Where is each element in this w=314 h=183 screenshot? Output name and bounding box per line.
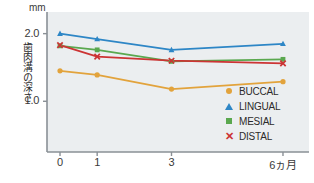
circle-marker-icon	[222, 88, 236, 94]
marker-shape	[225, 103, 233, 110]
chart-container: mm 歯肉溝の深さ 2.01.0 0136ヵ月 BUCCALLINGUALMES…	[0, 0, 314, 183]
triangle-marker-icon	[222, 103, 236, 110]
data-point-buccal	[95, 72, 100, 77]
legend-item-buccal[interactable]: BUCCAL	[222, 84, 310, 98]
marker-shape	[226, 118, 232, 124]
data-point-mesial	[95, 47, 100, 52]
data-point-buccal	[169, 87, 174, 92]
legend-label: MESIAL	[239, 116, 274, 127]
x-marker-icon: ✕	[222, 132, 236, 141]
legend-label: LINGUAL	[239, 101, 280, 112]
marker-shape	[226, 88, 232, 94]
chart-legend: BUCCALLINGUALMESIAL✕DISTAL	[222, 84, 310, 144]
legend-label: BUCCAL	[239, 86, 278, 97]
data-point-buccal	[57, 68, 62, 73]
legend-label: DISTAL	[239, 131, 272, 142]
square-marker-icon	[222, 118, 236, 124]
legend-item-lingual[interactable]: LINGUAL	[222, 99, 310, 113]
legend-item-mesial[interactable]: MESIAL	[222, 114, 310, 128]
legend-item-distal[interactable]: ✕DISTAL	[222, 129, 310, 143]
marker-shape: ✕	[225, 132, 234, 141]
